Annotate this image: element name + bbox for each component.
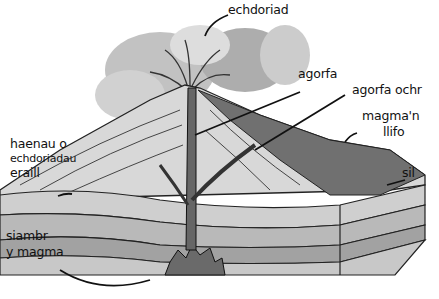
label-sill: sil [402,165,415,181]
label-vent: agorfa [298,66,337,82]
label-magma-chamber: siambr y magma [6,228,64,259]
volcano-diagram: echdoriad agorfa agorfa ochr magma'n lli… [0,0,439,299]
label-other-eruption-layers: haenau o echdoriadau eraill [10,136,76,181]
label-flowing-magma: magma'n llifo [362,108,420,139]
label-side-vent: agorfa ochr [352,82,422,98]
central-vent [186,88,196,250]
label-eruption: echdoriad [228,2,288,18]
